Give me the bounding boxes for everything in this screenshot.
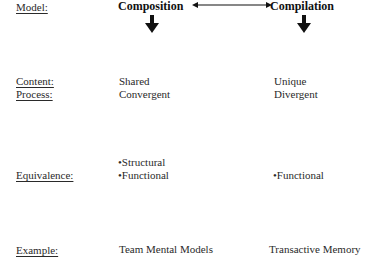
composition-model: Composition [118,0,183,13]
content-right: Unique [274,75,306,88]
equivalence-right-item: •Functional [273,169,324,182]
content-label: Content: [16,75,54,88]
content-left: Shared [119,75,150,88]
model-label: Model: [16,1,48,14]
example-left: Team Mental Models [119,243,213,256]
process-right: Divergent [274,88,318,101]
down-arrow-icon [145,15,159,33]
process-left: Convergent [119,88,170,101]
down-arrow-icon [297,15,311,33]
example-right: Transactive Memory [269,243,361,256]
equivalence-label: Equivalence: [16,169,73,182]
equivalence-left-item: •Structural [118,156,165,169]
double-arrow-icon [192,0,272,10]
equivalence-left-item: •Functional [118,169,169,182]
example-label: Example: [16,244,58,257]
process-label: Process: [16,88,53,101]
compilation-model: Compilation [270,0,334,13]
